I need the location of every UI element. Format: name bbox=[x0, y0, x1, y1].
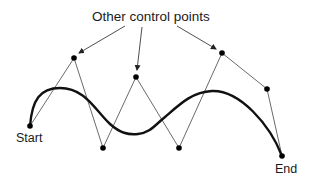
start-label: Start bbox=[16, 131, 43, 145]
arrow-to-control-point-5 bbox=[177, 26, 216, 49]
control-point bbox=[100, 145, 106, 151]
spline-diagram: Other control points Start End bbox=[0, 0, 310, 179]
control-point bbox=[133, 74, 139, 80]
arrow-to-control-point-3 bbox=[137, 27, 142, 70]
end-point bbox=[279, 153, 285, 159]
end-label: End bbox=[275, 162, 297, 176]
spline-curve bbox=[30, 88, 282, 156]
control-point bbox=[71, 55, 77, 61]
start-point bbox=[27, 123, 33, 129]
arrow-to-control-point-1 bbox=[79, 26, 125, 53]
control-point bbox=[264, 86, 270, 92]
control-points-label: Other control points bbox=[92, 9, 210, 24]
control-point bbox=[219, 50, 225, 56]
control-point bbox=[176, 145, 182, 151]
